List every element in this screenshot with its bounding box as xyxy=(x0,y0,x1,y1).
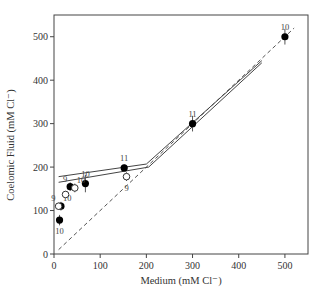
x-tick-label: 400 xyxy=(231,260,246,271)
y-tick-label: 0 xyxy=(43,249,48,260)
data-point-open xyxy=(55,203,62,210)
fit-lines xyxy=(59,28,295,250)
x-tick-label: 300 xyxy=(185,260,200,271)
data-point-filled xyxy=(189,120,196,127)
data-point-open xyxy=(71,185,78,192)
line-fit-upper xyxy=(59,61,262,177)
sample-size-label: 9 xyxy=(51,193,55,203)
y-axis-title: Coelomic Fluid (mM Cl⁻) xyxy=(5,89,17,201)
x-axis-title: Medium (mM Cl⁻) xyxy=(140,275,222,287)
y-axis: 0100200300400500 xyxy=(33,31,54,259)
data-point-filled xyxy=(56,217,63,224)
y-tick-label: 100 xyxy=(33,205,48,216)
data-points: 10109101111109109 xyxy=(51,22,289,236)
y-tick-label: 400 xyxy=(33,75,48,86)
line-fit-lower xyxy=(59,63,262,183)
data-point-filled xyxy=(121,164,128,171)
x-axis: 0100200300400500 xyxy=(52,254,293,271)
x-tick-label: 500 xyxy=(277,260,292,271)
sample-size-label: 10 xyxy=(77,175,86,185)
sample-size-label: 10 xyxy=(55,226,64,236)
sample-size-label: 11 xyxy=(188,109,196,119)
data-point-filled xyxy=(281,33,288,40)
chart: 0100200300400500 0100200300400500 101091… xyxy=(0,0,324,298)
data-point-open xyxy=(123,173,130,180)
y-tick-label: 200 xyxy=(33,162,48,173)
sample-size-label: 10 xyxy=(281,22,290,32)
x-tick-label: 200 xyxy=(139,260,154,271)
sample-size-label: 9 xyxy=(63,174,67,184)
x-tick-label: 100 xyxy=(93,260,108,271)
y-tick-label: 500 xyxy=(33,31,48,42)
x-tick-label: 0 xyxy=(52,260,57,271)
line-identity xyxy=(59,28,295,250)
y-tick-label: 300 xyxy=(33,118,48,129)
sample-size-label: 11 xyxy=(120,153,128,163)
data-point-open xyxy=(62,191,69,198)
sample-size-label: 9 xyxy=(124,183,128,193)
